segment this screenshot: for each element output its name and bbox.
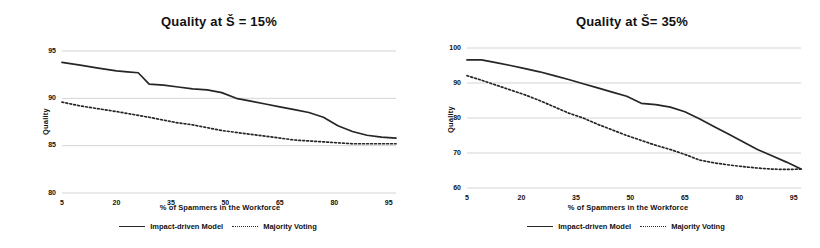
line-solid-icon bbox=[527, 226, 553, 227]
y-axis-title: Quality bbox=[41, 108, 50, 135]
x-axis-tick-label: 5 bbox=[48, 199, 76, 206]
y-axis-tick-label: 80 bbox=[433, 114, 461, 121]
x-axis-tick-label: 35 bbox=[562, 194, 590, 201]
legend-label: Majority Voting bbox=[263, 222, 317, 231]
line-dotted-icon bbox=[640, 226, 666, 227]
data-series-line bbox=[62, 62, 396, 138]
x-axis-tick-label: 80 bbox=[725, 194, 753, 201]
y-axis-tick-label: 90 bbox=[28, 94, 56, 101]
x-axis-tick-label: 50 bbox=[616, 194, 644, 201]
x-axis-tick-label: 65 bbox=[266, 199, 294, 206]
y-axis-tick-label: 70 bbox=[433, 149, 461, 156]
chart-panel-right: Quality at Š= 35% Quality % of Spammers … bbox=[410, 0, 820, 248]
chart-legend: Impact-driven Model Majority Voting bbox=[410, 222, 820, 231]
legend-entry-impact-driven-model: Impact-driven Model bbox=[527, 222, 631, 231]
legend-label: Impact-driven Model bbox=[150, 222, 223, 231]
y-axis-tick-label: 60 bbox=[433, 184, 461, 191]
legend-entry-impact-driven-model: Impact-driven Model bbox=[119, 222, 223, 231]
figure-two-line-charts: Quality at Š = 15% Quality % of Spammers… bbox=[0, 0, 820, 248]
y-axis-tick-label: 85 bbox=[28, 141, 56, 148]
y-axis-tick-label: 95 bbox=[28, 47, 56, 54]
line-solid-icon bbox=[119, 226, 145, 227]
x-axis-tick-label: 35 bbox=[157, 199, 185, 206]
data-series-line bbox=[62, 102, 396, 144]
line-dotted-icon bbox=[232, 226, 258, 227]
x-axis-tick-label: 50 bbox=[211, 199, 239, 206]
legend-label: Impact-driven Model bbox=[558, 222, 631, 231]
x-axis-tick-label: 20 bbox=[102, 199, 130, 206]
legend-entry-majority-voting: Majority Voting bbox=[640, 222, 725, 231]
x-axis-tick-label: 80 bbox=[320, 199, 348, 206]
legend-entry-majority-voting: Majority Voting bbox=[232, 222, 317, 231]
y-axis-tick-label: 90 bbox=[433, 79, 461, 86]
x-axis-tick-label: 20 bbox=[507, 194, 535, 201]
chart-panel-left: Quality at Š = 15% Quality % of Spammers… bbox=[0, 0, 410, 248]
x-axis-tick-label: 65 bbox=[671, 194, 699, 201]
legend-label: Majority Voting bbox=[671, 222, 725, 231]
data-series-line bbox=[467, 76, 801, 170]
x-axis-tick-label: 95 bbox=[780, 194, 808, 201]
x-axis-tick-label: 5 bbox=[453, 194, 481, 201]
y-axis-tick-label: 100 bbox=[433, 44, 461, 51]
x-axis-tick-label: 95 bbox=[375, 199, 403, 206]
x-axis-title: % of Spammers in the Workforce bbox=[410, 203, 820, 212]
y-axis-tick-label: 80 bbox=[28, 189, 56, 196]
chart-legend: Impact-driven Model Majority Voting bbox=[0, 222, 410, 231]
